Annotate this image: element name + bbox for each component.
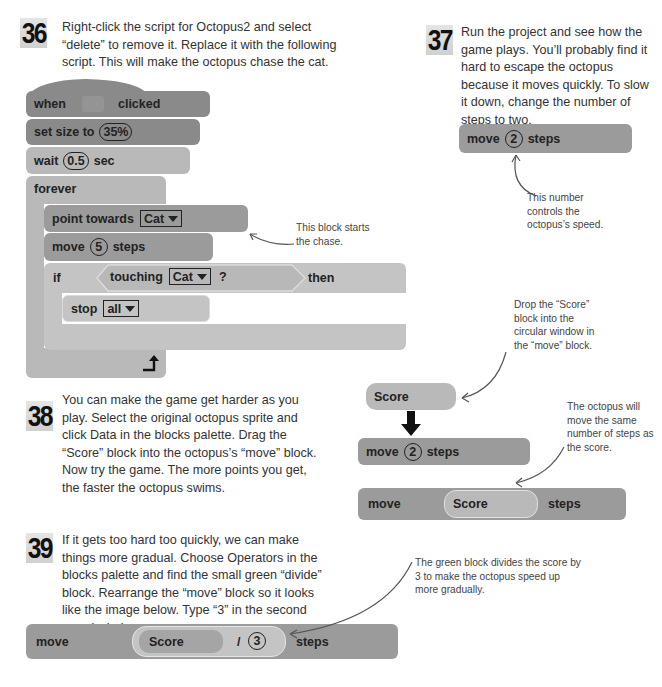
wait-input[interactable]: 0.5 [63,152,88,170]
down-arrow-icon [401,411,421,441]
step-number-39: 39 [26,533,53,563]
if-arm [44,292,62,324]
stop-block[interactable]: stop all [62,295,210,322]
step-38-text: You can make the game get harder as you … [62,392,318,497]
if-label: if [53,271,61,285]
divisor-input[interactable]: 3 [248,632,266,650]
arrow-divide [284,560,424,640]
move-steps-input[interactable]: 2 [505,130,523,148]
wait-block[interactable]: wait 0.5 sec [26,147,190,174]
stop-dropdown[interactable]: all [103,300,139,317]
move-before-input[interactable]: 2 [404,443,422,461]
if-bottom [44,324,406,350]
move-2-steps-block[interactable]: move 2 steps [459,124,632,153]
point-towards-block[interactable]: point towards Cat [44,205,248,232]
note-same: The octopus will move the same number of… [567,400,657,454]
set-size-block[interactable]: set size to 35% [26,119,200,145]
size-input[interactable]: 35% [99,123,132,141]
move-steps-block[interactable]: move 5 steps [44,233,213,261]
green-flag-icon [82,96,104,112]
step-number-36: 36 [20,18,47,48]
dropdown-arrow-icon [168,216,178,222]
note-divide: The green block divides the score by 3 t… [415,556,585,597]
touching-target-dropdown[interactable]: Cat [169,268,211,285]
step-36-text: Right-click the script for Octopus2 and … [62,19,344,72]
score-reporter-block[interactable]: Score [366,383,456,410]
when-flag-clicked-block[interactable]: when clicked [26,91,210,117]
loop-arrow-icon [142,354,162,376]
score-slot[interactable]: Score [444,490,538,518]
forever-label: forever [34,182,76,196]
step-number-37: 37 [426,25,453,55]
step-37-text: Run the project and see how the game pla… [461,24,657,129]
divide-sign: / [237,635,240,649]
note-drop: Drop the “Score” block into the circular… [514,298,606,352]
move-2-steps-before-block[interactable]: move 2 steps [358,438,530,465]
dropdown-arrow-icon [197,274,207,280]
move-score-steps-block[interactable]: move Score steps [358,488,626,520]
arrow-drop [458,350,518,420]
dropdown-arrow-icon [125,306,135,312]
note-speed: This number controls the octopus’s speed… [527,191,607,232]
note-chase: This block starts the chase. [296,221,386,248]
move-input[interactable]: 5 [90,238,108,256]
divide-operator-block[interactable]: Score / 3 [132,626,286,657]
forever-arm [26,200,44,350]
score-slot[interactable]: Score [139,630,223,653]
arrow-chase [244,226,304,256]
then-label: then [308,271,334,285]
step-number-38: 38 [26,401,53,431]
touching-condition[interactable]: touching Cat ? [110,268,227,285]
point-target-dropdown[interactable]: Cat [140,210,182,227]
